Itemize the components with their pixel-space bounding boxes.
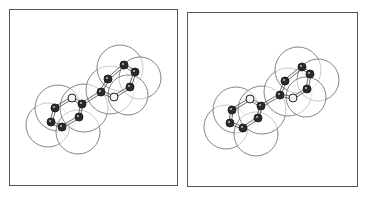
atom-highlight: [305, 87, 307, 89]
carbon-atom-icon: [51, 104, 59, 112]
carbon-atom-icon: [131, 68, 139, 76]
atom-highlight: [49, 120, 51, 122]
carbon-atom-icon: [306, 70, 314, 78]
atom-highlight: [128, 85, 130, 87]
carbon-atom-icon: [126, 83, 134, 91]
molecular-model-figure: [0, 0, 366, 199]
atom-highlight: [283, 79, 285, 81]
carbon-atom-icon: [104, 75, 112, 83]
atom-highlight: [77, 115, 79, 117]
carbon-atom-icon: [228, 106, 236, 114]
atom-highlight: [80, 102, 82, 104]
atom-highlight: [133, 70, 135, 72]
carbon-atom-icon: [298, 63, 306, 71]
molecule-model-left: [26, 45, 161, 154]
carbon-atom-icon: [75, 113, 83, 121]
atom-highlight: [122, 63, 124, 65]
atom-highlight: [308, 72, 310, 74]
atom-highlight: [256, 116, 258, 118]
carbon-atom-icon: [257, 102, 265, 110]
carbon-atom-icon: [254, 114, 262, 122]
atom-highlight: [278, 93, 280, 95]
carbon-atom-icon: [276, 91, 284, 99]
carbon-atom-icon: [97, 88, 105, 96]
atom-highlight: [60, 125, 62, 127]
carbon-atom-icon: [226, 119, 234, 127]
atom-highlight: [259, 104, 261, 106]
atom-highlight: [228, 121, 230, 123]
carbon-atom-icon: [58, 123, 66, 131]
atom-highlight: [106, 77, 108, 79]
atom-highlight: [241, 126, 243, 128]
atom-highlight: [230, 108, 232, 110]
atom-highlight: [300, 65, 302, 67]
carbon-atom-icon: [239, 124, 247, 132]
carbon-atom-icon: [78, 100, 86, 108]
hetero-atom-icon: [110, 93, 118, 101]
carbon-atom-icon: [120, 61, 128, 69]
carbon-atom-icon: [47, 118, 55, 126]
atom-highlight: [99, 90, 101, 92]
hetero-atom-icon: [289, 94, 297, 102]
hetero-atom-icon: [246, 95, 254, 103]
hetero-atom-icon: [68, 94, 76, 102]
molecule-model-right: [204, 47, 339, 156]
carbon-atom-icon: [281, 77, 289, 85]
atom-highlight: [53, 106, 55, 108]
carbon-atom-icon: [303, 85, 311, 93]
